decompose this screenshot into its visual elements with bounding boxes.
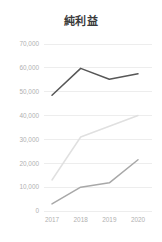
gridlines xyxy=(44,44,152,211)
y-axis-tick-label: 40,000 xyxy=(19,112,39,119)
y-axis-tick-label: 0 xyxy=(35,207,39,214)
x-axis-tick-label: 2020 xyxy=(131,216,146,223)
y-axis-tick-label: 10,000 xyxy=(19,183,39,190)
y-axis-tick-label: 20,000 xyxy=(19,160,39,167)
y-axis-tick-label: 30,000 xyxy=(19,136,39,143)
line-chart-plot: 70,00060,00050,00040,00030,00020,00010,0… xyxy=(0,0,162,242)
chart-card: 純利益 70,00060,00050,00040,00030,00020,000… xyxy=(0,0,162,242)
series-line-series-3 xyxy=(52,160,138,204)
y-axis-tick-label: 70,000 xyxy=(19,40,39,47)
data-series-group xyxy=(52,68,138,204)
series-line-series-1 xyxy=(52,68,138,95)
y-axis-tick-label: 50,000 xyxy=(19,88,39,95)
x-axis-tick-labels: 2017201820192020 xyxy=(45,216,146,223)
x-axis-tick-label: 2019 xyxy=(102,216,117,223)
x-axis-tick-label: 2018 xyxy=(74,216,89,223)
y-axis-tick-labels: 70,00060,00050,00040,00030,00020,00010,0… xyxy=(19,40,39,214)
x-axis-tick-label: 2017 xyxy=(45,216,60,223)
y-axis-tick-label: 60,000 xyxy=(19,64,39,71)
